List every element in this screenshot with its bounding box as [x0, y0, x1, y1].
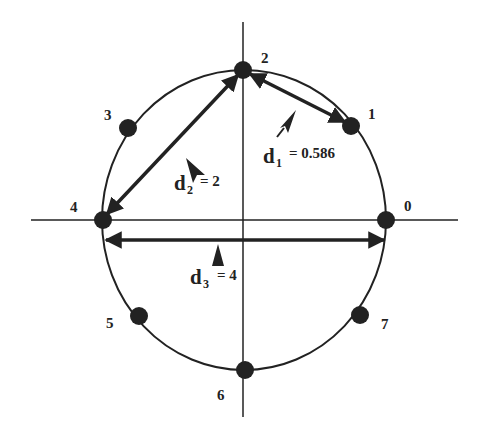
- point-label-3: 3: [104, 107, 112, 123]
- d3-label: d 3 = 4: [190, 265, 237, 291]
- point-label-6: 6: [217, 387, 225, 403]
- point-label-4: 4: [70, 199, 78, 215]
- point-label-0: 0: [404, 198, 412, 214]
- point-label-1: 1: [368, 106, 376, 122]
- point-2: [234, 61, 252, 79]
- d1-pointer-stem: [277, 128, 284, 137]
- point-4: [94, 211, 112, 229]
- point-3: [119, 119, 137, 137]
- d2-symbol: d: [174, 171, 186, 195]
- d1-label: d 1 = 0.586: [263, 144, 336, 170]
- d3-subscript: 3: [203, 277, 209, 291]
- point-label-2: 2: [261, 50, 269, 66]
- point-label-7: 7: [381, 316, 389, 332]
- d1-subscript: 1: [276, 156, 282, 170]
- d3-symbol: d: [190, 265, 202, 289]
- d2-arrow: [107, 75, 238, 214]
- point-5: [130, 307, 148, 325]
- point-6: [236, 361, 254, 379]
- constellation-diagram: 0 1 2 3 4 5 6 7 d 1 = 0.586 d 2 = 2 d 3 …: [0, 0, 485, 438]
- point-label-5: 5: [106, 315, 114, 331]
- d3-pointer-icon: [212, 244, 224, 266]
- d3-value: = 4: [217, 267, 237, 283]
- point-7: [351, 306, 369, 324]
- d2-subscript: 2: [187, 183, 193, 197]
- d1-value: = 0.586: [289, 145, 336, 161]
- d1-symbol: d: [263, 144, 275, 168]
- point-0: [377, 211, 395, 229]
- d2-value: = 2: [200, 173, 220, 189]
- point-1: [342, 117, 360, 135]
